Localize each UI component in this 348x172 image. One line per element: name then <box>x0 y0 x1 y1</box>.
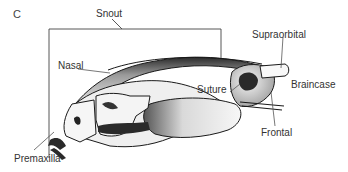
supraorbital-bone <box>260 64 289 78</box>
label-braincase: Braincase <box>291 79 335 90</box>
jugal <box>144 98 241 137</box>
label-suture: Suture <box>197 84 226 95</box>
label-premaxilla: Premaxilla <box>14 153 61 164</box>
panel-label: C <box>13 8 21 20</box>
label-supraorbital: Supraorbital <box>252 29 306 40</box>
frontal-bone <box>240 102 284 110</box>
label-nasal: Nasal <box>58 60 84 71</box>
skull-diagram: C Snout Nasal Supraorbital Suture Brainc… <box>0 0 348 172</box>
label-snout: Snout <box>96 8 122 19</box>
label-frontal: Frontal <box>261 127 292 138</box>
